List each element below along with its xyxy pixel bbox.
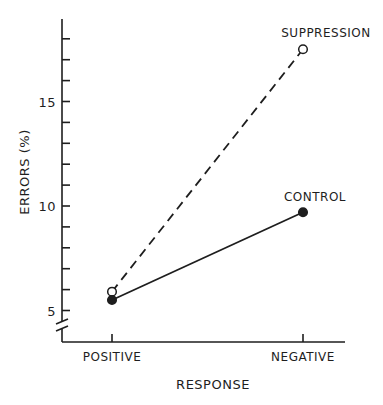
data-point [108, 287, 117, 296]
series-layer: SUPPRESSIONCONTROL [108, 26, 371, 304]
data-point [108, 296, 117, 305]
x-axis: POSITIVENEGATIVE [62, 334, 345, 364]
x-axis-label: RESPONSE [176, 377, 250, 392]
data-point [299, 208, 308, 217]
x-tick-label: POSITIVE [83, 350, 142, 364]
series-label: CONTROL [284, 190, 346, 204]
y-axis-label: ERRORS (%) [17, 129, 32, 214]
y-tick-label: 10 [38, 199, 56, 214]
series-suppression: SUPPRESSION [108, 26, 371, 296]
data-point [299, 45, 308, 54]
y-tick-label: 15 [38, 95, 56, 110]
x-tick-label: NEGATIVE [271, 350, 335, 364]
y-tick-label: 5 [47, 304, 56, 319]
y-axis: 51015 [38, 19, 70, 342]
series-control: CONTROL [108, 190, 346, 304]
series-label: SUPPRESSION [281, 26, 371, 40]
line-chart: 51015 POSITIVENEGATIVE SUPPRESSIONCONTRO… [0, 0, 383, 405]
